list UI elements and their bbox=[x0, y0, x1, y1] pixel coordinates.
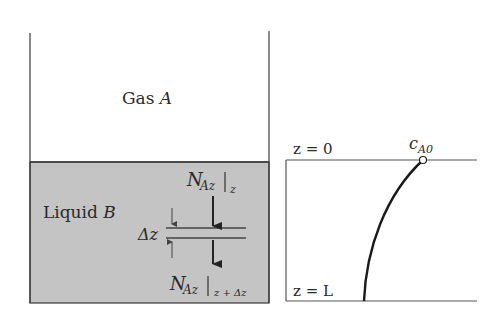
svg-text:z: z bbox=[229, 183, 236, 196]
diffusion-diagram: Gas A Liquid B Δz N Az z N Az z + Δz bbox=[0, 0, 504, 325]
z-zero-label: z = 0 bbox=[293, 140, 333, 158]
svg-text:A0: A0 bbox=[417, 143, 433, 156]
surface-concentration-point bbox=[420, 157, 427, 164]
concentration-profile: z = 0 z = L c A0 bbox=[286, 134, 477, 301]
cA0-label: c A0 bbox=[409, 134, 433, 156]
svg-text:z + Δz: z + Δz bbox=[213, 287, 247, 298]
gas-label: Gas A bbox=[122, 88, 172, 108]
vessel: Gas A Liquid B bbox=[30, 31, 269, 303]
liquid-label: Liquid B bbox=[43, 202, 116, 222]
svg-text:c: c bbox=[409, 134, 418, 153]
z-L-label: z = L bbox=[293, 282, 333, 300]
concentration-curve bbox=[364, 160, 423, 301]
svg-text:Az: Az bbox=[182, 283, 199, 297]
delta-z-label: Δz bbox=[137, 225, 159, 244]
svg-text:Az: Az bbox=[199, 179, 216, 193]
